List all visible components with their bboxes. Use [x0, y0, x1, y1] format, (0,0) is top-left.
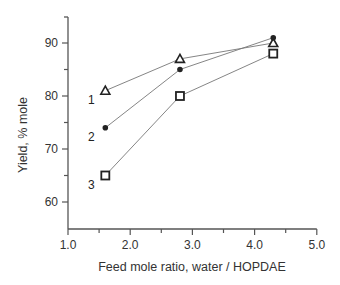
- y-tick-label: 90: [45, 36, 59, 50]
- x-tick-label: 5.0: [308, 238, 325, 252]
- series-line: [105, 54, 273, 176]
- circle-marker-icon: [103, 125, 109, 131]
- triangle-marker-icon: [101, 86, 110, 94]
- series-2: 2: [88, 35, 276, 144]
- axes: 607080901.02.03.04.05.0: [45, 17, 326, 252]
- triangle-marker-icon: [175, 54, 184, 62]
- series-line: [105, 38, 273, 128]
- x-tick-label: 3.0: [184, 238, 201, 252]
- y-tick-label: 80: [45, 89, 59, 103]
- series-number-label: 2: [88, 130, 95, 144]
- series-group: 123: [88, 35, 278, 192]
- x-tick-label: 4.0: [246, 238, 263, 252]
- x-axis-label: Feed mole ratio, water / HOPDAE: [98, 260, 286, 274]
- series-number-label: 1: [88, 93, 95, 107]
- x-tick-label: 2.0: [122, 238, 139, 252]
- square-marker-icon: [176, 92, 184, 100]
- square-marker-icon: [101, 172, 109, 180]
- x-tick-label: 1.0: [60, 238, 77, 252]
- y-tick-label: 60: [45, 195, 59, 209]
- circle-marker-icon: [270, 35, 276, 41]
- series-line: [105, 43, 273, 91]
- yield-chart: 607080901.02.03.04.05.0 123 Feed mole ra…: [0, 0, 340, 285]
- y-axis-label: Yield, % mole: [16, 97, 30, 173]
- y-tick-label: 70: [45, 142, 59, 156]
- series-3: 3: [88, 50, 277, 192]
- circle-marker-icon: [177, 67, 183, 73]
- series-number-label: 3: [88, 178, 95, 192]
- square-marker-icon: [269, 50, 277, 58]
